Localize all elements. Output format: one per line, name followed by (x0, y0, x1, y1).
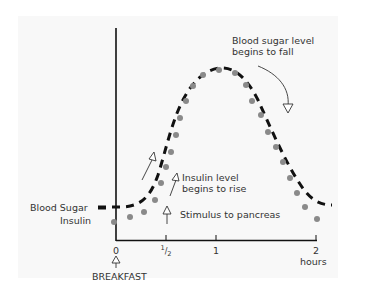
fall-arrow-head-icon (283, 104, 293, 113)
x-axis-unit: hours (300, 256, 327, 267)
stimulus-label: Stimulus to pancreas (180, 209, 280, 220)
tick-label-0: 0 (106, 245, 126, 256)
rise-arrow-line (142, 160, 152, 180)
legend-blood-sugar: Blood Sugar (30, 202, 88, 213)
breakfast-label: BREAKFAST (92, 271, 147, 282)
fall-arrow-line (258, 66, 288, 106)
insulin-arrow-line (170, 180, 176, 196)
fall-label-line2: begins to fall (232, 46, 294, 57)
legend-insulin: Insulin (60, 215, 91, 226)
tick-label-1: 1 (206, 245, 226, 256)
insulin-arrow-head-icon (172, 173, 179, 181)
tick-label-2: 2 (306, 245, 326, 256)
fall-label-line1: Blood sugar level (232, 35, 314, 46)
insulin-label-line1: Insulin level (182, 172, 239, 183)
tick-half-den: 2 (167, 250, 171, 258)
tick-label-half: 1/2 (156, 244, 176, 258)
breakfast-arrow-head-icon (112, 256, 120, 263)
tick-half-num: 1 (160, 244, 164, 252)
rise-arrow-head-icon (149, 152, 156, 161)
insulin-label-line2: begins to rise (182, 183, 246, 194)
stimulus-arrow-head-icon (163, 206, 171, 214)
